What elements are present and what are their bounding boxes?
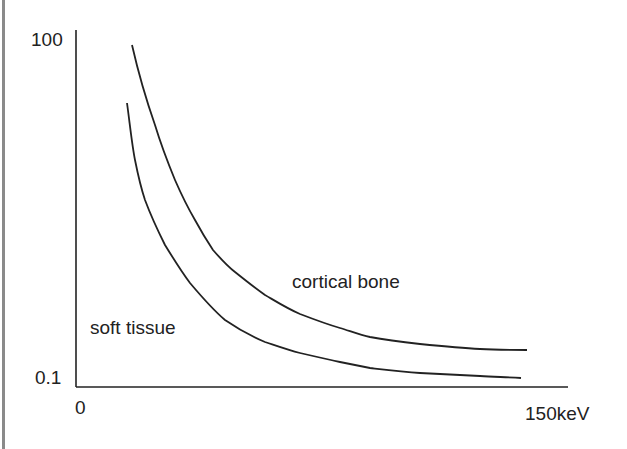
soft-tissue-label: soft tissue [90,318,176,337]
cortical-bone-curve [132,45,527,350]
soft-tissue-curve [127,103,521,378]
y-tick-label-top: 100 [31,30,63,49]
x-tick-label-right: 150keV [525,404,589,423]
cortical-bone-label: cortical bone [292,272,400,291]
attenuation-chart [0,0,627,449]
y-tick-label-bottom: 0.1 [35,368,61,387]
x-tick-label-left: 0 [75,398,86,417]
